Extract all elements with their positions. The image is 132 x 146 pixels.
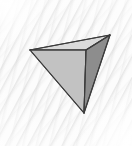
render-canvas: Tetrahedron triangular pyramid Top face … <box>0 0 132 146</box>
tetrahedron-solid <box>0 0 132 146</box>
